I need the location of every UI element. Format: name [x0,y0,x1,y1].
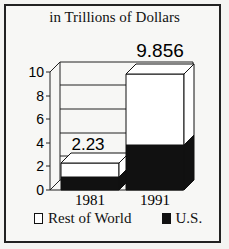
svg-text:1981: 1981 [75,192,105,208]
legend-label-us: U.S. [176,210,203,227]
bar-1991 [126,64,194,190]
bar-1991-rest [126,74,184,145]
legend-swatch-rest-of-world [34,213,43,224]
svg-text:8: 8 [36,88,44,104]
y-tick-labels: 0 2 4 6 8 10 [28,64,44,198]
svg-text:0: 0 [36,182,44,198]
legend-swatch-us [162,213,171,224]
bar-1991-total-label: 9.856 [136,40,184,61]
x-tick-labels: 1981 1991 [75,192,170,208]
svg-text:10: 10 [28,64,44,80]
y-axis [46,62,60,190]
bar-1981-us [61,177,119,190]
svg-text:1991: 1991 [140,192,170,208]
legend: Rest of World U.S. [34,210,202,227]
legend-label-rest-of-world: Rest of World [48,210,132,227]
bar-1981-rest [61,163,119,177]
bar-1991-us [126,145,184,190]
bar-1981-total-label: 2.23 [71,135,104,154]
svg-text:4: 4 [36,135,44,151]
bar-1981 [61,153,129,190]
svg-text:2: 2 [36,158,44,174]
svg-text:6: 6 [36,111,44,127]
